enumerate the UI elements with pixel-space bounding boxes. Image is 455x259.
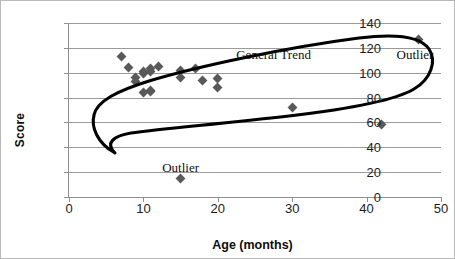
y-tick-label: 100: [341, 67, 381, 80]
gridline: [69, 98, 441, 99]
gridline: [69, 172, 441, 173]
y-tick-label: 20: [341, 166, 381, 179]
data-point: [287, 103, 297, 113]
x-tick-label: 10: [123, 202, 163, 215]
scatter-chart-figure: Score Age (months) General Trend Outlier…: [0, 0, 455, 259]
y-tick: [64, 172, 69, 173]
x-tick-label: 0: [49, 202, 89, 215]
y-tick-label: 40: [341, 141, 381, 154]
data-point: [116, 52, 126, 62]
data-point: [414, 34, 424, 44]
x-axis-title: Age (months): [1, 238, 454, 252]
y-axis-line: [68, 23, 69, 197]
data-point: [124, 63, 134, 73]
x-tick-label: 20: [198, 202, 238, 215]
data-point: [146, 86, 156, 96]
y-tick-label: 140: [341, 17, 381, 30]
y-tick-label: 60: [341, 116, 381, 129]
y-tick: [64, 122, 69, 123]
gridline: [69, 147, 441, 148]
y-tick: [64, 48, 69, 49]
annotation-outlier-top: Outlier: [397, 47, 434, 63]
x-tick-label: 30: [272, 202, 312, 215]
data-point: [213, 83, 223, 93]
y-tick: [64, 73, 69, 74]
gridline: [69, 73, 441, 74]
data-point: [176, 73, 186, 83]
y-tick: [64, 23, 69, 24]
y-tick: [64, 147, 69, 148]
annotation-outlier-bottom: Outlier: [162, 160, 199, 176]
y-axis-title: Score: [13, 112, 27, 146]
x-tick-label: 40: [347, 202, 387, 215]
y-tick-label: 80: [341, 92, 381, 105]
x-tick-label: 50: [421, 202, 455, 215]
gridline: [69, 23, 441, 24]
x-axis-line: [68, 197, 441, 198]
plot-area: General Trend Outlier Outlier: [69, 23, 441, 197]
y-tick: [64, 98, 69, 99]
data-point: [198, 75, 208, 85]
y-tick-label: 120: [341, 42, 381, 55]
annotation-general-trend: General Trend: [236, 47, 311, 63]
